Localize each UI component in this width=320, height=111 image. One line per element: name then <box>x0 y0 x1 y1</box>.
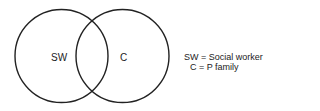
circle-label-c: C <box>120 53 127 63</box>
legend-item-c: C = P family <box>184 62 263 72</box>
legend: SW = Social worker C = P family <box>184 52 263 72</box>
legend-item-sw: SW = Social worker <box>184 52 263 62</box>
circle-label-sw: SW <box>51 53 67 63</box>
